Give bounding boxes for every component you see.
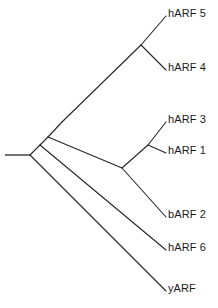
branch-node54-to-harf5 — [141, 16, 166, 45]
branch-lines — [30, 16, 166, 291]
tip-label-yarf: yARF — [168, 283, 196, 294]
phylogenetic-tree-figure: hARF 5hARF 4hARF 3hARF 1bARF 2hARF 6yARF — [0, 0, 218, 308]
tip-label-harf5: hARF 5 — [168, 8, 206, 19]
branch-node31-to-harf3 — [148, 122, 166, 145]
tip-label-barf2: bARF 2 — [168, 209, 206, 220]
branch-crown-to-barf2 — [122, 168, 166, 217]
branch-upper-to-node54 — [62, 45, 141, 122]
branch-node-barf2-to-crown — [48, 137, 122, 168]
tip-label-harf1: hARF 1 — [168, 145, 206, 156]
branch-node-harf6-to-barf2node — [40, 137, 48, 145]
branch-node-barf2-to-upper — [48, 122, 62, 137]
branch-root-to-yarf — [30, 155, 166, 291]
tip-label-harf3: hARF 3 — [168, 114, 206, 125]
branch-root-to-node-harf6 — [30, 145, 40, 155]
branch-node31-to-harf1 — [148, 145, 166, 153]
branch-node54-to-harf4 — [141, 45, 166, 70]
tip-label-harf6: hARF 6 — [168, 242, 206, 253]
tip-label-harf4: hARF 4 — [168, 62, 206, 73]
branch-node-harf6-to-harf6 — [40, 145, 166, 250]
branch-crown-to-node31 — [122, 145, 148, 168]
